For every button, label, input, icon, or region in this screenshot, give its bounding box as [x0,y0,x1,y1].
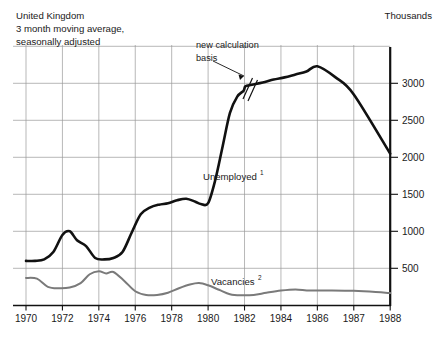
y-tick-label: 1500 [402,189,425,200]
x-tick-label: 1987 [343,313,366,324]
unemployed-series-label: Unemployed [203,171,257,182]
x-tick-label: 1986 [306,313,329,324]
x-tick-label: 1984 [270,313,293,324]
caption-line-2: 3 month moving average, [16,23,124,34]
x-tick-label: 1976 [124,313,147,324]
chart-canvas: 50010001500200025003000 1970197219741976… [0,0,438,337]
y-tick-label: 500 [402,263,419,274]
unemployed-footnote-marker: 1 [260,169,264,176]
horizontal-gridlines [13,46,390,268]
y-tick-label: 3000 [402,78,425,89]
unemployment-vacancies-chart: 50010001500200025003000 1970197219741976… [0,0,438,337]
vacancies-series-label: Vacancies [211,276,255,287]
annotation-line-1: new calculation [196,40,259,50]
x-tick-label: 1978 [161,313,184,324]
vertical-gridlines [26,45,354,306]
y-tick-label: 2000 [402,152,425,163]
y-axis-tick-labels: 50010001500200025003000 [402,78,425,274]
x-axis-tick-labels: 1970197219741976197819801982198419861987… [15,313,402,324]
units-label: Thousands [385,10,433,21]
x-tick-label: 1972 [51,313,74,324]
x-tick-label: 1982 [233,313,256,324]
x-tick-label: 1974 [88,313,111,324]
x-tick-label: 1970 [15,313,38,324]
y-tick-label: 1000 [402,226,425,237]
x-tick-label: 1988 [379,313,402,324]
y-axis-ticks [390,83,398,268]
x-tick-label: 1980 [197,313,220,324]
caption-line-3: seasonally adjusted [16,36,100,47]
annotation-leader-line [213,61,244,76]
caption-line-1: United Kingdom [16,10,84,21]
vacancies-footnote-marker: 2 [258,274,262,281]
y-tick-label: 2500 [402,115,425,126]
annotation-line-2: basis [196,53,218,63]
